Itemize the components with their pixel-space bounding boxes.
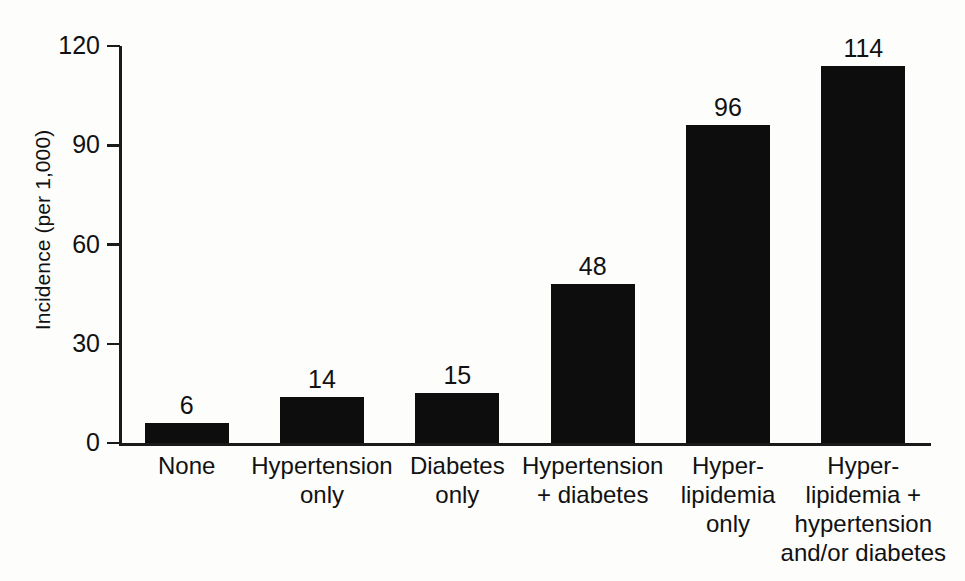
x-axis-line — [119, 443, 931, 446]
bar — [415, 393, 499, 443]
y-tick-label: 0 — [0, 430, 100, 455]
bar-slot: 48 — [525, 46, 660, 443]
bar-value-label: 96 — [714, 95, 742, 120]
y-axis-title: Incidence (per 1,000) — [26, 30, 60, 430]
bar — [686, 125, 770, 443]
bar-value-label: 6 — [180, 393, 194, 418]
bar-slot: 96 — [660, 46, 795, 443]
bar-slot: 15 — [390, 46, 525, 443]
bar-slot: 114 — [796, 46, 931, 443]
bar-value-label: 15 — [443, 363, 471, 388]
bar-slot: 6 — [119, 46, 254, 443]
y-tick-label: 30 — [0, 331, 100, 356]
bar-value-label: 14 — [308, 367, 336, 392]
bar-value-label: 48 — [579, 254, 607, 279]
bar — [551, 284, 635, 443]
bar-slot: 14 — [254, 46, 389, 443]
y-tick-label: 120 — [0, 33, 100, 58]
y-tick-label: 90 — [0, 132, 100, 157]
bar — [280, 397, 364, 443]
x-axis-category-labels: NoneHypertension onlyDiabetes onlyHypert… — [119, 451, 931, 581]
bar — [821, 66, 905, 443]
bar — [145, 423, 229, 443]
bar-value-label: 114 — [843, 36, 883, 61]
bar-chart: Incidence (per 1,000) 0306090120 6141548… — [0, 0, 965, 581]
y-tick-label: 60 — [0, 232, 100, 257]
plot-area: 614154896114 — [119, 46, 931, 443]
x-axis-category-label: Hyper- lipidemia + hypertension and/or d… — [774, 451, 953, 567]
